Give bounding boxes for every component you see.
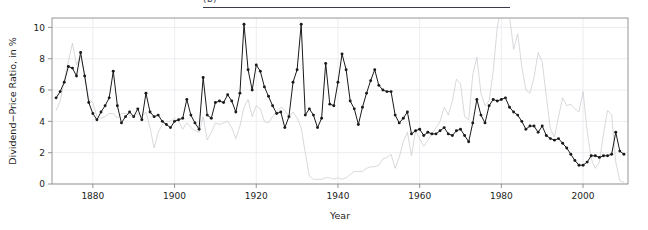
data-point [459, 128, 462, 131]
data-point [586, 161, 589, 164]
data-point [471, 121, 474, 124]
data-point [508, 106, 511, 109]
data-point [100, 111, 103, 114]
data-point [259, 70, 262, 73]
data-point [120, 121, 123, 124]
data-point [71, 67, 74, 70]
data-point [140, 118, 143, 121]
data-point [504, 96, 507, 99]
data-point [108, 96, 111, 99]
data-point [214, 101, 217, 104]
data-point [296, 68, 299, 71]
data-point [492, 98, 495, 101]
data-point [271, 104, 274, 107]
x-axis-label: Year [329, 210, 350, 221]
data-point [234, 111, 237, 114]
data-point [606, 154, 609, 157]
data-point [177, 118, 180, 121]
data-point [116, 104, 119, 107]
data-point [369, 79, 372, 82]
data-point [614, 131, 617, 134]
y-tick-label: 0 [39, 179, 45, 189]
data-point [618, 150, 621, 153]
data-point [357, 123, 360, 126]
x-tick-label: 1940 [327, 191, 350, 201]
data-point [557, 137, 560, 140]
data-point [112, 70, 115, 73]
data-point [161, 120, 164, 123]
data-point [541, 125, 544, 128]
data-point [594, 154, 597, 157]
data-point [206, 114, 209, 117]
x-tick-label: 1900 [163, 191, 186, 201]
data-point [561, 142, 564, 145]
data-point [447, 132, 450, 135]
chart-page: (b) 0246810 1880190019201940196019802000… [0, 0, 648, 230]
data-point [198, 128, 201, 131]
data-point [79, 51, 82, 54]
data-point [145, 92, 148, 95]
data-point [320, 117, 323, 120]
data-point [210, 117, 213, 120]
data-point [267, 95, 270, 98]
data-point [165, 123, 168, 126]
data-point [136, 107, 139, 110]
data-point [287, 115, 290, 118]
data-point [128, 111, 131, 114]
data-point [222, 101, 225, 104]
data-point [247, 68, 250, 71]
data-point [345, 68, 348, 71]
data-point [524, 128, 527, 131]
data-point [255, 64, 258, 67]
data-point [189, 114, 192, 117]
data-point [414, 129, 417, 132]
data-point [390, 90, 393, 93]
data-point [251, 89, 254, 92]
x-tick-label: 1880 [81, 191, 104, 201]
data-point [602, 154, 605, 157]
data-point [496, 100, 499, 103]
data-point [484, 121, 487, 124]
data-point [394, 114, 397, 117]
data-point [410, 132, 413, 135]
data-point [549, 137, 552, 140]
data-point [426, 131, 429, 134]
data-point [435, 132, 438, 135]
data-point [185, 98, 188, 101]
data-point [439, 129, 442, 132]
data-point [500, 98, 503, 101]
data-point [451, 134, 454, 137]
data-point [59, 90, 62, 93]
data-point [328, 103, 331, 106]
data-point [365, 92, 368, 95]
data-point [173, 120, 176, 123]
y-tick-label: 8 [39, 54, 45, 64]
data-point [243, 23, 246, 26]
data-point [124, 115, 127, 118]
data-point [283, 126, 286, 129]
data-point [406, 111, 409, 114]
data-point [578, 164, 581, 167]
data-point [349, 100, 352, 103]
data-point [533, 125, 536, 128]
data-point [467, 140, 470, 143]
data-point [75, 74, 78, 77]
data-point [582, 164, 585, 167]
data-point [569, 153, 572, 156]
data-point [67, 65, 70, 68]
data-point [275, 112, 278, 115]
data-point [91, 112, 94, 115]
data-point [332, 104, 335, 107]
data-point [529, 125, 532, 128]
data-point [263, 85, 266, 88]
data-point [516, 114, 519, 117]
dividend-price-ratio-chart: 0246810 1880190019201940196019802000 Div… [0, 0, 648, 230]
y-axis-ticks: 0246810 [34, 23, 52, 190]
data-point [292, 81, 295, 84]
data-point [230, 100, 233, 103]
data-point [488, 104, 491, 107]
data-point [87, 101, 90, 104]
data-point [598, 156, 601, 159]
data-point [181, 117, 184, 120]
data-point [353, 107, 356, 110]
